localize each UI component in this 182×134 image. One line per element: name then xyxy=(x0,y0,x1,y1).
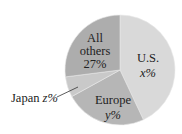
slice-label-us: U.S. xyxy=(137,51,159,65)
slice-value-us: x% xyxy=(139,66,156,80)
slice-value-all-others: 27% xyxy=(84,57,107,71)
slice-label-europe: Europe xyxy=(95,93,132,107)
slice-label-all-others-line1: All xyxy=(87,31,104,45)
pie-chart: U.S. x% Europe y% All others 27% Japan z… xyxy=(0,0,182,134)
slice-label-all-others-line2: others xyxy=(80,44,111,58)
slice-label-japan: Japan z% xyxy=(11,91,58,105)
slice-value-japan: z% xyxy=(42,91,58,105)
slice-value-europe: y% xyxy=(103,108,121,122)
slice-label-japan-name: Japan xyxy=(11,91,40,105)
